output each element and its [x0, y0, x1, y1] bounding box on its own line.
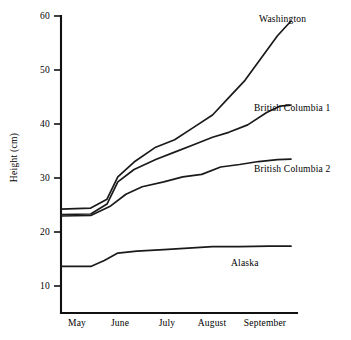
series-group [61, 21, 291, 267]
x-tick-label-august: August [189, 318, 235, 329]
x-tick-label-june: June [103, 318, 137, 329]
y-axis-title: Height (cm) [9, 120, 20, 196]
series-label-alaska: Alaska [231, 258, 259, 269]
series-label-british-columbia-1: British Columbia 1 [254, 103, 330, 114]
series-label-washington: Washington [259, 14, 306, 25]
y-tick-label-50: 50 [28, 65, 50, 75]
series-line-british-columbia-1 [61, 105, 291, 214]
series-line-washington [61, 21, 291, 209]
y-tick-label-30: 30 [28, 173, 50, 183]
line-chart-figure: Height (cm) 60 50 40 30 20 10 May June J… [0, 0, 351, 340]
y-tick-label-10: 10 [28, 281, 50, 291]
y-tick-label-40: 40 [28, 119, 50, 129]
series-label-british-columbia-2: British Columbia 2 [254, 164, 330, 175]
x-tick-label-may: May [60, 318, 94, 329]
y-tick-label-60: 60 [28, 11, 50, 21]
x-tick-label-september: September [234, 318, 296, 329]
y-tick-label-20: 20 [28, 227, 50, 237]
x-tick-label-july: July [150, 318, 184, 329]
